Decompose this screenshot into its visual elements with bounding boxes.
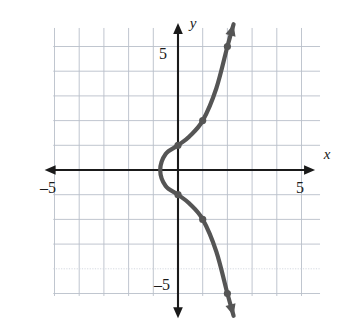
- curve-data-point: [174, 191, 181, 198]
- curve-data-point: [174, 142, 181, 149]
- curve-data-point: [224, 290, 231, 297]
- graph-canvas: y x 5 –5 –5 5: [0, 0, 346, 330]
- curve-data-point: [224, 43, 231, 50]
- y-axis-tick-label-negative-5: –5: [153, 276, 170, 293]
- curve-data-point: [199, 216, 206, 223]
- y-axis-label: y: [188, 15, 197, 31]
- y-axis-tick-label-5: 5: [159, 45, 167, 62]
- coordinate-graph-figure: y x 5 –5 –5 5: [0, 0, 346, 330]
- x-axis-tick-label-negative-5: –5: [39, 179, 56, 196]
- x-axis-label: x: [323, 146, 331, 162]
- curve-data-point: [199, 117, 206, 124]
- x-axis-tick-label-5: 5: [296, 179, 304, 196]
- figure-background: [0, 0, 346, 330]
